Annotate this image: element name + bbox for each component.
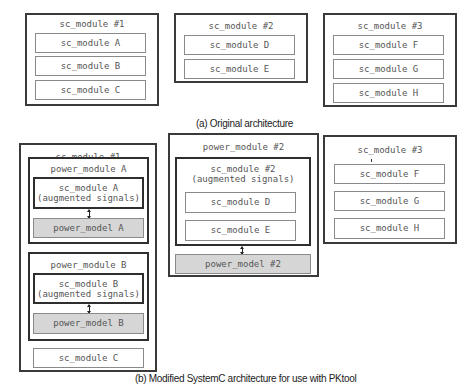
b-signal-arrow-a: [89, 210, 90, 218]
a-sc-module-b: sc_module B: [35, 56, 146, 76]
b-power-module-2-title: power_module #2: [170, 142, 317, 153]
a-sc-module-d: sc_module D: [184, 35, 295, 55]
b-sc-module-c: sc_module C: [33, 348, 144, 368]
a-sc-module-h-label: sc_module H: [359, 88, 419, 99]
b-sc-module-f: sc_module F: [334, 164, 445, 184]
b-signal-arrow-b: [89, 305, 90, 313]
b-sc-module-e: sc_module E: [185, 220, 296, 241]
a-sc-module-e-label: sc_module E: [210, 64, 270, 75]
b-stray-mark: [371, 159, 372, 162]
b-sc-module-b-sublabel: (augmented signals): [35, 289, 142, 300]
b-power-model-2: power_model #2: [175, 254, 311, 274]
b-signal-arrow-2: [242, 247, 243, 254]
b-power-module-b-title: power_module B: [30, 260, 147, 271]
a-sc-module-b-label: sc_module B: [61, 61, 121, 72]
b-power-model-b-label: power_model B: [53, 318, 123, 329]
a-sc-module-3-title: sc_module #3: [325, 21, 455, 32]
a-sc-module-g-label: sc_module G: [359, 64, 419, 75]
a-sc-module-1-title: sc_module #1: [27, 19, 157, 30]
b-sc-module-g: sc_module G: [334, 191, 445, 211]
a-sc-module-f: sc_module F: [333, 35, 444, 55]
b-sc-module-a-sublabel: (augmented signals): [35, 193, 142, 204]
a-sc-module-2-title: sc_module #2: [176, 21, 306, 32]
a-sc-module-c-label: sc_module C: [61, 85, 121, 96]
b-power-model-2-label: power_model #2: [205, 259, 281, 270]
a-sc-module-h: sc_module H: [333, 83, 444, 103]
a-sc-module-d-label: sc_module D: [210, 40, 270, 51]
a-sc-module-f-label: sc_module F: [359, 40, 419, 51]
b-power-model-b: power_model B: [33, 313, 144, 334]
a-sc-module-a-label: sc_module A: [61, 38, 121, 49]
b-power-model-a: power_model A: [33, 218, 144, 238]
a-sc-module-e: sc_module E: [184, 59, 295, 79]
b-power-module-a-title: power_module A: [30, 164, 147, 175]
b-sc-module-h: sc_module H: [334, 218, 445, 239]
b-sc-module-b-augmented: sc_module B (augmented signals): [33, 273, 144, 304]
b-sc-module-h-label: sc_module H: [360, 223, 420, 234]
b-sc-module-d: sc_module D: [185, 192, 296, 213]
b-sc-module-a-augmented: sc_module A (augmented signals): [33, 177, 144, 209]
b-sc-module-e-label: sc_module E: [211, 225, 271, 236]
b-sc-module-2-sublabel: (augmented signals): [177, 174, 309, 185]
b-sc-module-g-label: sc_module G: [360, 196, 420, 207]
b-power-model-a-label: power_model A: [53, 223, 123, 234]
a-sc-module-g: sc_module G: [333, 59, 444, 79]
b-sc-module-3-title: sc_module #3: [325, 145, 455, 156]
b-sc-module-f-label: sc_module F: [360, 169, 420, 180]
caption-a: (a) Original architecture: [196, 118, 293, 129]
b-sc-module-d-label: sc_module D: [211, 197, 271, 208]
b-sc-module-c-label: sc_module C: [59, 353, 119, 364]
a-sc-module-c: sc_module C: [35, 80, 146, 100]
caption-b: (b) Modified SystemC architecture for us…: [135, 373, 356, 384]
a-sc-module-a: sc_module A: [35, 33, 146, 53]
